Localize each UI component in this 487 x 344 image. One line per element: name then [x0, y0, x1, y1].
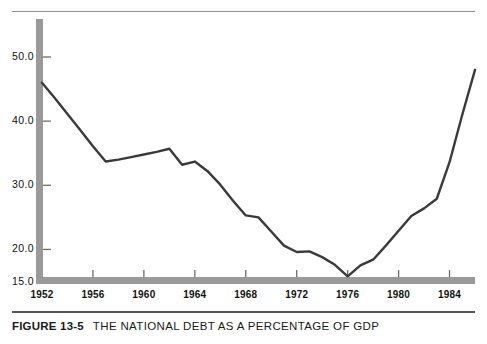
x-axis-tick-label: 1980	[379, 289, 419, 300]
x-tick-marks	[93, 270, 450, 277]
x-axis-tick-label: 1972	[277, 289, 317, 300]
x-axis-tick-label: 1968	[226, 289, 266, 300]
y-axis-tick-label: 40.0	[0, 114, 34, 126]
figure-container: 15.020.030.040.050.0 1952195619601964196…	[0, 0, 487, 344]
data-line-national-debt	[42, 70, 475, 277]
x-axis-tick-label: 1984	[430, 289, 470, 300]
y-axis-tick-label: 20.0	[0, 242, 34, 254]
x-axis-tick-label: 1964	[175, 289, 215, 300]
x-axis-tick-label: 1952	[22, 289, 62, 300]
x-axis-tick-label: 1976	[328, 289, 368, 300]
x-axis-tick-label: 1956	[73, 289, 113, 300]
caption-rule	[12, 311, 475, 313]
x-axis-tick-label: 1960	[124, 289, 164, 300]
figure-title: THE NATIONAL DEBT AS A PERCENTAGE OF GDP	[93, 320, 379, 332]
y-axis-tick-label: 50.0	[0, 50, 34, 62]
y-axis-tick-label: 30.0	[0, 178, 34, 190]
y-axis-tick-label: 15.0	[0, 275, 34, 287]
figure-caption: FIGURE 13-5THE NATIONAL DEBT AS A PERCEN…	[12, 320, 379, 332]
y-axis-bar	[36, 19, 43, 284]
figure-number: FIGURE 13-5	[12, 320, 84, 332]
x-axis-bar	[36, 277, 475, 284]
